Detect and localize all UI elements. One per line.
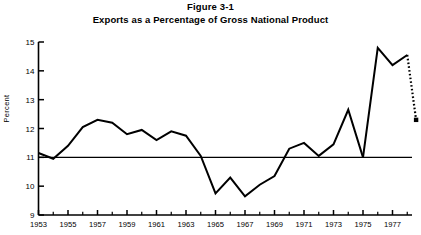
- x-axis-tick-label: 1975: [355, 220, 372, 229]
- data-line: [407, 55, 416, 120]
- line-chart: 9101112131415195319551957195919611963196…: [0, 0, 421, 235]
- y-axis-tick-label: 15: [26, 38, 35, 47]
- y-axis-tick-label: 10: [26, 182, 35, 191]
- x-axis-tick-label: 1971: [296, 220, 313, 229]
- x-axis-tick-label: 1967: [237, 220, 254, 229]
- y-axis-tick-label: 14: [26, 67, 35, 76]
- x-axis-tick-label: 1955: [60, 220, 77, 229]
- y-axis-tick-label: 9: [30, 211, 35, 220]
- y-axis-tick-label: 11: [26, 153, 35, 162]
- x-axis-tick-label: 1961: [148, 220, 165, 229]
- x-axis-tick-label: 1969: [266, 220, 283, 229]
- x-axis-tick-label: 1965: [207, 220, 224, 229]
- data-end-marker: [414, 118, 418, 122]
- x-axis-tick-label: 1973: [325, 220, 342, 229]
- data-line: [363, 48, 407, 158]
- x-axis-tick-label: 1977: [384, 220, 401, 229]
- y-axis-tick-label: 13: [26, 96, 35, 105]
- x-axis-tick-label: 1959: [119, 220, 136, 229]
- x-axis-tick-label: 1963: [178, 220, 195, 229]
- chart-render-group: 9101112131415195319551957195919611963196…: [26, 38, 419, 229]
- figure-container: Figure 3-1 Exports as a Percentage of Gr…: [0, 0, 421, 235]
- data-line: [39, 110, 364, 197]
- x-axis-tick-label: 1953: [30, 220, 47, 229]
- x-axis-tick-label: 1957: [89, 220, 106, 229]
- y-axis-tick-label: 12: [26, 125, 35, 134]
